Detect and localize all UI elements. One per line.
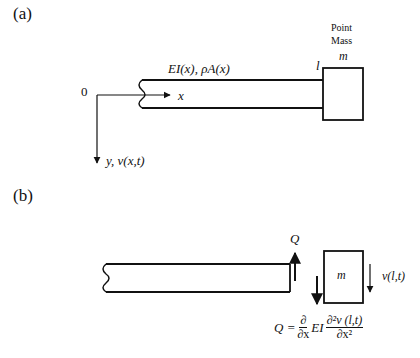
beam-a (139, 80, 323, 108)
shear-equation: Q = ∂ ∂x EI ∂²v (l,t) ∂x² (274, 314, 363, 341)
panel-b-label: (b) (13, 186, 33, 206)
mass-title-line2: Mass (331, 35, 352, 46)
equation-ei: EI (311, 320, 323, 336)
beam-b (103, 264, 290, 292)
second-derivative: ∂²v (l,t) ∂x² (326, 314, 364, 341)
beam-end-label: l (316, 58, 320, 74)
mass-symbol-b: m (337, 268, 346, 283)
panel-a-label: (a) (13, 4, 32, 24)
y-axis-label: y, v(x,t) (106, 153, 145, 169)
displacement-label: v(l,t) (382, 269, 405, 284)
equation-lhs: Q = (274, 320, 295, 336)
first-derivative: ∂ ∂x (297, 314, 309, 341)
point-mass-a (323, 68, 363, 120)
origin-label: 0 (81, 84, 88, 100)
shear-force-label: Q (290, 231, 299, 247)
x-axis-label: x (178, 88, 184, 104)
mass-symbol-a: m (339, 49, 348, 64)
beam-properties-label: EI(x), ρA(x) (168, 61, 230, 77)
mass-title-line1: Point (331, 22, 352, 33)
diagram-canvas (0, 0, 420, 358)
